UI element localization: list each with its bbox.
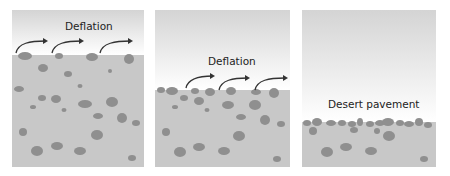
pebbles [302,10,436,167]
panel-desert-pavement: Desert pavement [302,10,436,167]
pebbles-and-arrows [155,10,290,167]
panel-deflation-lowered: Deflation [155,10,290,167]
panel-deflation-initial: Deflation [12,10,144,167]
pebbles-and-arrows [12,10,144,167]
